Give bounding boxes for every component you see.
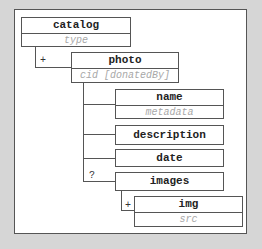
node-date: date	[115, 149, 224, 167]
node-images: images	[115, 172, 224, 191]
connector-photo-images	[83, 181, 115, 182]
connector-catalog-photo-horizontal	[35, 67, 71, 68]
node-img-name: img	[135, 197, 242, 212]
node-photo: photo cid [donatedBy]	[71, 52, 179, 83]
node-description: description	[115, 125, 224, 145]
node-name-attr: metadata	[116, 105, 223, 120]
connector-photo-description	[83, 134, 115, 135]
cardinality-photo-images: ?	[89, 171, 95, 181]
node-name-name: name	[116, 90, 223, 105]
node-catalog: catalog type	[21, 17, 131, 47]
node-img: img src	[134, 196, 243, 227]
node-images-name: images	[116, 173, 223, 190]
node-img-attr: src	[135, 212, 242, 227]
connector-catalog-photo-vertical	[35, 47, 36, 68]
node-catalog-name: catalog	[22, 18, 130, 33]
connector-photo-date	[83, 158, 115, 159]
cardinality-catalog-photo: +	[40, 56, 46, 66]
connector-photo-name	[83, 104, 115, 105]
node-description-name: description	[116, 126, 223, 144]
node-photo-attr: cid [donatedBy]	[72, 68, 178, 83]
node-catalog-attr: type	[22, 33, 130, 48]
node-name: name metadata	[115, 89, 224, 119]
node-date-name: date	[116, 150, 223, 166]
node-photo-name: photo	[72, 53, 178, 68]
connector-photo-trunk	[83, 83, 84, 181]
cardinality-images-img: +	[125, 201, 131, 211]
connector-images-img-vertical	[121, 191, 122, 211]
